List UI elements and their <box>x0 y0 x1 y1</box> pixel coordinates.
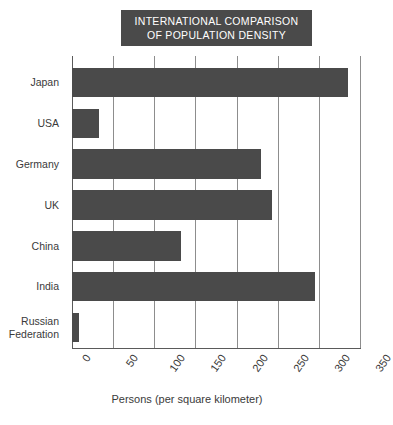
bar-row <box>72 68 360 97</box>
category-label-text: Germany <box>16 158 59 171</box>
bar-germany <box>72 149 261 178</box>
bar-row <box>72 313 360 342</box>
category-label-china: China <box>0 225 66 266</box>
bar-russian-federation <box>72 313 79 342</box>
bar-japan <box>72 68 348 97</box>
bar-india <box>72 272 315 301</box>
x-axis-tick-labels: 050100150200250300350 <box>0 352 374 397</box>
category-label-india: India <box>0 266 66 307</box>
category-label-germany: Germany <box>0 144 66 185</box>
x-axis-line <box>72 348 361 349</box>
category-label-text: USA <box>37 117 59 130</box>
category-label-text: UK <box>44 199 59 212</box>
bar-uk <box>72 190 272 219</box>
chart-title-banner: INTERNATIONAL COMPARISON OF POPULATION D… <box>121 10 312 46</box>
category-label-uk: UK <box>0 185 66 226</box>
bar-china <box>72 231 181 260</box>
x-tick-label-300: 300 <box>332 352 352 374</box>
x-tick-label-0: 0 <box>80 352 93 364</box>
bar-usa <box>72 109 99 138</box>
category-label-text: Japan <box>30 76 59 89</box>
bar-row <box>72 231 360 260</box>
category-label-russian-federation: Russian Federation <box>0 307 66 348</box>
y-axis-category-labels: JapanUSAGermanyUKChinaIndiaRussian Feder… <box>0 62 66 348</box>
bar-row <box>72 190 360 219</box>
plot-area <box>72 62 360 348</box>
gridline-350 <box>360 56 361 348</box>
x-tick-label-150: 150 <box>208 352 228 374</box>
x-tick-label-100: 100 <box>167 352 187 374</box>
chart-title-line-2: OF POPULATION DENSITY <box>147 28 286 42</box>
chart-title-line-1: INTERNATIONAL COMPARISON <box>135 14 299 28</box>
x-tick-label-250: 250 <box>291 352 311 374</box>
category-label-japan: Japan <box>0 62 66 103</box>
bar-row <box>72 272 360 301</box>
category-label-usa: USA <box>0 103 66 144</box>
category-label-text: India <box>36 280 59 293</box>
bar-row <box>72 149 360 178</box>
x-tick-label-350: 350 <box>373 352 393 374</box>
x-tick-label-50: 50 <box>123 352 140 369</box>
x-axis-title: Persons (per square kilometer) <box>0 393 374 405</box>
x-tick-label-200: 200 <box>249 352 269 374</box>
category-label-text: Russian Federation <box>9 315 59 340</box>
bar-row <box>72 109 360 138</box>
category-label-text: China <box>32 240 59 253</box>
